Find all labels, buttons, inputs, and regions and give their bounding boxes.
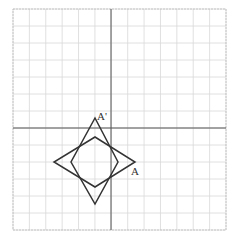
shapes (54, 118, 135, 204)
label-a: A (131, 165, 139, 177)
point-labels: A' A (97, 110, 139, 177)
axes (13, 9, 226, 230)
rotation-diagram: A' A (0, 0, 233, 243)
grid-border (13, 9, 226, 230)
label-a-prime: A' (97, 110, 107, 122)
grid (13, 9, 226, 230)
